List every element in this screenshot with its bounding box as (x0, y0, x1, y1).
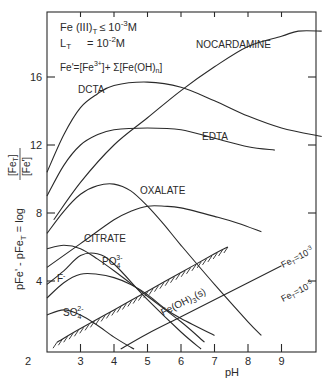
x-tick-label: 9 (279, 355, 285, 367)
x-tick-label: 7 (212, 355, 218, 367)
x-tick-label: 5 (145, 355, 151, 367)
label-edta: EDTA (202, 131, 228, 142)
y-tick-label: 4 (36, 275, 42, 287)
x-tick-label: 4 (111, 355, 117, 367)
y-tick-label: 12 (30, 139, 42, 151)
label-fet-1e-3: FeT=10-3 (279, 244, 316, 271)
svg-text:pFe' - pFeT = log: pFe' - pFeT = log (13, 208, 28, 290)
svg-text:[Fe']: [Fe'] (21, 157, 32, 176)
svg-text:[FeT]: [FeT] (7, 154, 19, 176)
svg-text:Fe (III)T≤ 10-3M: Fe (III)T≤ 10-3M (60, 19, 137, 36)
x-tick-label: 6 (178, 355, 184, 367)
svg-text:FeT=10-3: FeT=10-3 (279, 244, 316, 271)
label-fet-1e-5: FeT=10-5 (279, 278, 316, 305)
svg-text:FeT=10-5: FeT=10-5 (279, 278, 316, 305)
x-tick-label: 3 (78, 355, 84, 367)
label-so4: SO42- (63, 305, 84, 320)
conditions-annotation: Fe (III)T≤ 10-3M LT= 10-2M Fe'=[Fe3+]+ Σ… (60, 19, 162, 74)
label-citrate: CITRATE (84, 233, 126, 244)
x-axis-label: pH (225, 366, 239, 378)
y-axis-label: pFe' - pFeT = log [FeT] [Fe'] (7, 148, 32, 290)
curve-f (47, 245, 205, 342)
y-tick-label: 8 (36, 207, 42, 219)
svg-text:Fe(OH)3(s): Fe(OH)3(s) (159, 286, 208, 320)
curve-dcta (47, 82, 322, 172)
label-oxalate: OXALATE (140, 185, 186, 196)
label-feoh3-solid: Fe(OH)3(s) (159, 286, 208, 320)
svg-text:LT= 10-2M: LT= 10-2M (60, 35, 125, 51)
y-tick-label: 16 (30, 71, 42, 83)
label-po4: PO43- (102, 254, 123, 269)
label-dcta: DCTA (78, 84, 105, 95)
label-nocardamine: NOCARDAMINE (196, 39, 271, 50)
x-axis: 23456789 pH (25, 344, 285, 378)
x-tick-label: 8 (245, 355, 251, 367)
curve-citrate (47, 206, 261, 268)
curve-fe-t-10-5 (121, 266, 282, 349)
chart: 23456789 pH 481216 pFe' - pFeT = log [Fe… (0, 0, 329, 381)
x-tick-label: 2 (25, 355, 31, 367)
svg-text:Fe'=[Fe3+]+ Σ[Fe(OH)n]: Fe'=[Fe3+]+ Σ[Fe(OH)n] (60, 60, 162, 74)
